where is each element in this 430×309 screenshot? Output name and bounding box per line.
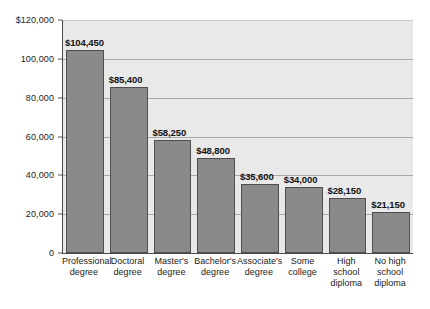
x-axis-category-line: Doctoral [106, 256, 150, 267]
x-axis-category-line: degree [150, 267, 194, 278]
y-axis-tick-label: 0 [49, 249, 54, 258]
x-axis-category-line: degree [62, 267, 106, 278]
y-axis: 020,00040,00060,00080,000100,000$120,000 [0, 0, 62, 309]
bar-slot: $28,150 [326, 20, 370, 253]
bar-slot: $21,150 [369, 20, 413, 253]
x-axis-category-line: Associate's [237, 256, 281, 267]
bar-value-label: $58,250 [153, 128, 187, 138]
y-axis-tick-label: 40,000 [26, 171, 54, 180]
x-axis-category-line: degree [106, 267, 150, 278]
x-axis-category-line: school [368, 267, 412, 278]
x-axis-category-label: Master'sdegree [150, 256, 194, 278]
x-axis-category-label: High schooldiploma [325, 256, 369, 289]
bar-slot: $48,800 [194, 20, 238, 253]
x-axis-category-line: college [281, 267, 325, 278]
x-axis-category-label: Doctoraldegree [106, 256, 150, 278]
bar-value-label: $21,150 [371, 200, 405, 210]
x-axis-category-line: degree [237, 267, 281, 278]
bar-slot: $85,400 [107, 20, 151, 253]
bars-container: $104,450$85,400$58,250$48,800$35,600$34,… [63, 20, 413, 253]
x-axis-category-label: Associate'sdegree [237, 256, 281, 278]
y-axis-tick-label: 80,000 [26, 93, 54, 102]
bar[interactable] [110, 87, 148, 253]
x-axis-category-label: Bachelor'sdegree [193, 256, 237, 278]
x-axis-category-line: Bachelor's [193, 256, 237, 267]
y-axis-tick-label: 60,000 [26, 132, 54, 141]
bar-slot: $34,000 [282, 20, 326, 253]
x-axis-category-label: Professionaldegree [62, 256, 106, 278]
bar[interactable] [241, 184, 279, 253]
x-axis-category-line: No high [368, 256, 412, 267]
bar-value-label: $104,450 [65, 38, 104, 48]
x-axis-category-label: Somecollege [281, 256, 325, 278]
plot-area: $104,450$85,400$58,250$48,800$35,600$34,… [62, 20, 413, 254]
bar[interactable] [372, 212, 410, 253]
x-axis-category-line: Some [281, 256, 325, 267]
bar-value-label: $48,800 [196, 146, 230, 156]
bar[interactable] [66, 50, 104, 253]
bar[interactable] [154, 140, 192, 253]
y-axis-tick-label: 100,000 [21, 54, 54, 63]
bar-slot: $35,600 [238, 20, 282, 253]
x-axis-category-label: No highschooldiploma [368, 256, 412, 289]
bar-slot: $104,450 [63, 20, 107, 253]
x-axis-category-line: Master's [150, 256, 194, 267]
bar-value-label: $35,600 [240, 172, 274, 182]
x-axis-category-line: degree [193, 267, 237, 278]
bar-slot: $58,250 [151, 20, 195, 253]
x-axis-category-line: diploma [368, 278, 412, 289]
bar[interactable] [285, 187, 323, 253]
y-axis-tick-label: $120,000 [16, 16, 54, 25]
bar-value-label: $85,400 [109, 75, 143, 85]
x-axis-category-line: diploma [325, 278, 369, 289]
bar-value-label: $34,000 [284, 175, 318, 185]
x-axis: ProfessionaldegreeDoctoraldegreeMaster's… [62, 256, 412, 309]
bar-value-label: $28,150 [328, 186, 362, 196]
bar[interactable] [329, 198, 367, 253]
x-axis-category-line: Professional [62, 256, 106, 267]
bar[interactable] [197, 158, 235, 253]
y-axis-tick-label: 20,000 [26, 210, 54, 219]
bar-chart: 020,00040,00060,00080,000100,000$120,000… [0, 0, 430, 309]
x-axis-category-line: High school [325, 256, 369, 278]
